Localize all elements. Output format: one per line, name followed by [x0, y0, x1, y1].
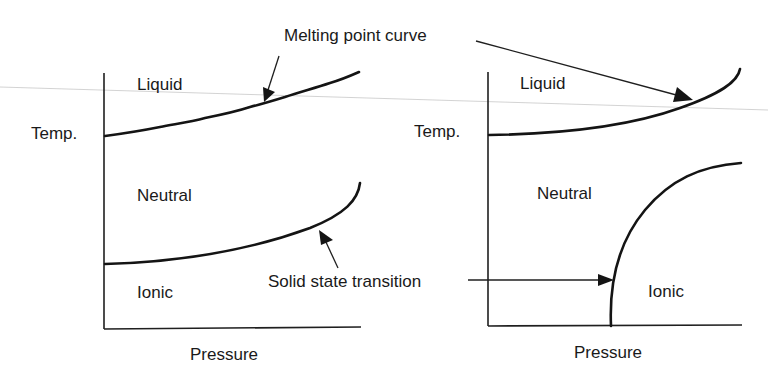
left-phase-diagram: Liquid Neutral Ionic Temp. Pressure	[31, 56, 361, 364]
left-region-neutral: Neutral	[137, 186, 192, 205]
right-region-neutral: Neutral	[537, 184, 592, 203]
left-solid-state-leader	[325, 240, 338, 268]
left-x-axis-label: Pressure	[190, 345, 258, 364]
right-solid-state-arrowhead	[598, 274, 614, 286]
right-y-axis-label: Temp.	[414, 122, 460, 141]
right-phase-diagram: Liquid Neutral Ionic Temp. Pressure	[414, 69, 742, 362]
left-region-liquid: Liquid	[137, 75, 182, 94]
scan-artifact-line	[0, 87, 768, 110]
phase-diagram-figure: Liquid Neutral Ionic Temp. Pressure Liqu…	[0, 0, 768, 377]
right-melting-leader	[476, 41, 680, 96]
right-x-axis-label: Pressure	[574, 343, 642, 362]
left-y-axis-label: Temp.	[31, 124, 77, 143]
right-region-ionic: Ionic	[648, 282, 684, 301]
left-x-axis	[104, 327, 361, 329]
melting-point-annotation: Melting point curve	[284, 26, 427, 45]
solid-state-annotation: Solid state transition	[268, 272, 421, 291]
right-melting-arrowhead	[673, 87, 693, 102]
right-x-axis	[488, 325, 742, 326]
left-region-ionic: Ionic	[137, 283, 173, 302]
left-solid-state-arrowhead	[319, 230, 333, 245]
annotations: Melting point curve Solid state transiti…	[268, 26, 693, 291]
right-solid-state-curve	[611, 163, 741, 326]
right-region-liquid: Liquid	[520, 74, 565, 93]
left-melting-leader	[268, 56, 279, 90]
